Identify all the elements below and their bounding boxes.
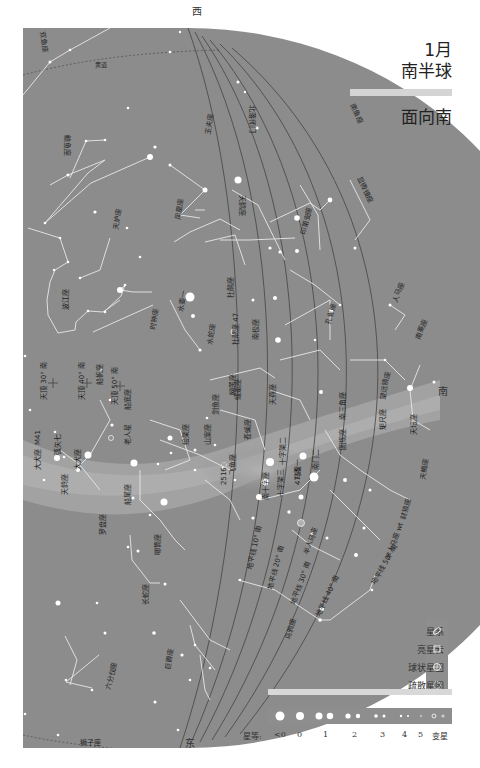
svg-text:大犬座: 大犬座 — [33, 449, 42, 470]
svg-text:天鸽座: 天鸽座 — [60, 474, 69, 495]
svg-text:狮子座: 狮子座 — [80, 738, 101, 747]
svg-text:天顶 40° 南: 天顶 40° 南 — [77, 362, 86, 400]
magnitude-scale — [268, 708, 452, 724]
svg-text:天坛座: 天坛座 — [409, 414, 418, 435]
svg-text:波江座: 波江座 — [61, 289, 70, 310]
svg-text:杜鹃座: 杜鹃座 — [226, 277, 235, 298]
hemisphere-label: 南半球 — [401, 60, 452, 82]
magnitude-divider — [268, 689, 452, 695]
svg-text:罗盘座: 罗盘座 — [98, 514, 107, 535]
svg-text:4755: 4755 — [294, 467, 302, 485]
svg-text:船尾座: 船尾座 — [123, 484, 132, 505]
magnitude-tick: 4 — [402, 730, 407, 739]
magnitude-tick: 5 — [418, 730, 423, 739]
svg-text:南十字座: 南十字座 — [261, 472, 270, 500]
svg-text:弧矢七: 弧矢七 — [53, 434, 62, 455]
svg-text:鲸鱼座: 鲸鱼座 — [63, 135, 72, 156]
svg-text:天顶 30° 南: 天顶 30° 南 — [39, 362, 48, 400]
svg-text:船帆座: 船帆座 — [95, 364, 104, 385]
facing-label: 面向南 — [401, 103, 452, 128]
svg-text:天顶 50° 南: 天顶 50° 南 — [110, 367, 119, 405]
svg-text:船底座: 船底座 — [123, 389, 132, 410]
svg-text:2516: 2516 — [220, 467, 228, 485]
magnitude-tick: 1 — [323, 730, 328, 739]
svg-text:唧筒座: 唧筒座 — [153, 534, 162, 555]
magnitude-tick: 3 — [380, 730, 385, 739]
svg-text:十字架二: 十字架二 — [278, 437, 287, 465]
title-block: 1月 南半球 — [401, 40, 452, 82]
svg-text:飞鱼座: 飞鱼座 — [228, 454, 237, 475]
galaxy-icon — [432, 626, 442, 636]
direction-top-label: 西 — [192, 3, 202, 18]
svg-text:蝘蜓座: 蝘蜓座 — [233, 379, 242, 400]
magnitude-title: 星等: — [243, 730, 262, 741]
svg-text:南极座: 南极座 — [251, 319, 260, 340]
magnitude-tick-variable: 变星 — [432, 730, 448, 741]
nebula-icon — [432, 644, 442, 654]
magnitude-tick: 0 — [297, 730, 302, 739]
direction-bottom-label: 东 — [185, 735, 195, 750]
direction-right-label: 南 — [438, 383, 448, 398]
svg-text:苍蝇座: 苍蝇座 — [243, 419, 252, 440]
magnitude-dots — [268, 708, 452, 724]
svg-text:天鹤座: 天鹤座 — [238, 195, 247, 216]
ecliptic-label: 黄道 — [95, 61, 107, 69]
svg-text:M41: M41 — [34, 430, 42, 445]
svg-text:老人星: 老人星 — [123, 424, 132, 445]
month-label: 1月 — [401, 40, 452, 60]
svg-text:北落师门: 北落师门 — [248, 105, 257, 133]
svg-text:剑鱼座: 剑鱼座 — [211, 394, 220, 415]
svg-text:矩尺座: 矩尺座 — [378, 409, 387, 430]
svg-text:绘架座: 绘架座 — [181, 424, 190, 445]
svg-text:杜鹃座 47: 杜鹃座 47 — [231, 313, 240, 345]
magnitude-tick: 2 — [352, 730, 357, 739]
svg-text:十字架三: 十字架三 — [276, 469, 285, 497]
svg-text:天燕座: 天燕座 — [268, 384, 277, 405]
title-divider — [350, 89, 452, 96]
svg-text:圆规座: 圆规座 — [338, 429, 347, 450]
svg-text:南三角座: 南三角座 — [338, 392, 347, 420]
svg-text:大犬座: 大犬座 — [73, 449, 82, 470]
globular-cluster-icon — [432, 662, 442, 672]
magnitude-tick: <0 — [274, 730, 286, 739]
svg-text:山案座: 山案座 — [203, 424, 212, 445]
svg-text:长蛇座: 长蛇座 — [141, 584, 150, 605]
svg-text:南门二: 南门二 — [311, 449, 320, 470]
